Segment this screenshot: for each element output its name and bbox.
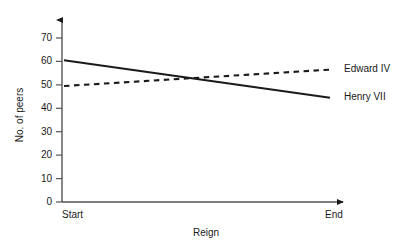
series-line-henry-vii	[64, 60, 330, 97]
x-axis-end-label: End	[325, 210, 343, 220]
y-tick-label-0: 0	[34, 197, 52, 207]
y-tick-label-40: 40	[34, 103, 52, 113]
series-line-edward-iv	[64, 70, 330, 86]
y-axis-ticks	[56, 38, 62, 202]
y-axis-title: No. of peers	[15, 88, 25, 142]
y-tick-label-10: 10	[34, 174, 52, 184]
y-tick-label-50: 50	[34, 80, 52, 90]
series-label-henry-vii: Henry VII	[344, 92, 386, 102]
series-label-edward-iv: Edward IV	[344, 64, 390, 74]
y-tick-label-70: 70	[34, 33, 52, 43]
y-axis-title-wrap: No. of peers	[13, 80, 27, 150]
x-axis-title: Reign	[193, 228, 219, 238]
x-axis-start-label: Start	[62, 210, 83, 220]
y-tick-label-60: 60	[34, 56, 52, 66]
y-tick-label-30: 30	[34, 127, 52, 137]
y-tick-label-20: 20	[34, 150, 52, 160]
chart-figure: 70 60 50 40 30 20 10 0 No. of peers Star…	[0, 0, 412, 251]
